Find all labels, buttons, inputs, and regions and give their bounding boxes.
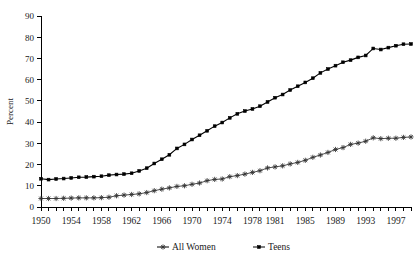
legend-label-teens: Teens	[268, 242, 290, 252]
data-point-teens	[357, 56, 360, 59]
series-line-teens	[41, 44, 411, 180]
data-point-teens	[349, 59, 352, 62]
data-point-all-women	[220, 176, 225, 181]
data-point-all-women	[106, 195, 111, 200]
series-line-all-women	[41, 137, 411, 199]
data-point-all-women	[401, 135, 406, 140]
data-point-teens	[160, 158, 163, 161]
y-axis-tick-label: 50	[25, 96, 35, 106]
data-point-all-women	[91, 195, 96, 200]
data-point-all-women	[393, 136, 398, 141]
data-point-all-women	[303, 158, 308, 163]
data-point-all-women	[167, 185, 172, 190]
data-point-teens	[364, 54, 367, 57]
data-point-teens	[183, 143, 186, 146]
data-point-all-women	[288, 161, 293, 166]
data-point-teens	[236, 112, 239, 115]
data-point-teens	[108, 174, 111, 177]
data-point-teens	[62, 177, 65, 180]
data-point-teens	[47, 178, 50, 181]
data-point-teens	[334, 64, 337, 67]
data-point-teens	[342, 61, 345, 64]
x-axis-tick-label: 1970	[183, 216, 202, 226]
data-point-teens	[176, 147, 179, 150]
y-axis-tick-label: 80	[25, 33, 35, 43]
data-point-teens	[289, 89, 292, 92]
data-point-all-women	[76, 195, 81, 200]
data-point-all-women	[189, 182, 194, 187]
data-point-teens	[213, 125, 216, 128]
data-point-teens	[319, 71, 322, 74]
data-point-teens	[168, 153, 171, 156]
data-point-teens	[221, 121, 224, 124]
legend-marker-star	[160, 244, 165, 249]
data-point-all-women	[348, 142, 353, 147]
data-point-teens	[394, 44, 397, 47]
data-point-all-women	[325, 150, 330, 155]
data-point-all-women	[129, 192, 134, 197]
data-point-all-women	[257, 168, 262, 173]
data-point-teens	[372, 47, 375, 50]
data-point-teens	[153, 162, 156, 165]
data-point-all-women	[333, 147, 338, 152]
x-axis-tick-label: 1985	[296, 216, 315, 226]
x-axis-tick-label: 1974	[213, 216, 232, 226]
data-point-teens	[123, 173, 126, 176]
data-point-all-women	[121, 193, 126, 198]
data-point-teens	[379, 48, 382, 51]
data-point-teens	[228, 116, 231, 119]
y-axis-tick-label: 10	[25, 181, 35, 191]
x-axis-tick-label: 1981	[266, 216, 285, 226]
data-point-all-women	[408, 134, 413, 139]
data-point-all-women	[242, 172, 247, 177]
line-chart: 0102030405060708090195019541958196219661…	[0, 0, 420, 263]
data-point-teens	[191, 138, 194, 141]
data-point-all-women	[182, 183, 187, 188]
legend-label-all-women: All Women	[172, 242, 216, 252]
data-point-all-women	[363, 139, 368, 144]
data-point-all-women	[280, 163, 285, 168]
data-point-all-women	[340, 145, 345, 150]
data-point-teens	[259, 105, 262, 108]
data-point-teens	[85, 176, 88, 179]
x-axis-tick-label: 1978	[243, 216, 262, 226]
data-point-all-women	[212, 177, 217, 182]
data-point-all-women	[386, 136, 391, 141]
x-axis-tick-label: 1954	[62, 216, 81, 226]
y-axis-tick-label: 90	[25, 11, 35, 21]
x-axis-tick-label: 1950	[32, 216, 51, 226]
y-axis-tick-label: 0	[30, 202, 35, 212]
data-point-all-women	[54, 196, 59, 201]
data-point-teens	[327, 68, 330, 71]
data-point-all-women	[144, 190, 149, 195]
data-point-all-women	[38, 196, 43, 201]
data-point-teens	[296, 85, 299, 88]
data-point-all-women	[152, 188, 157, 193]
data-point-all-women	[378, 136, 383, 141]
data-point-teens	[281, 93, 284, 96]
x-axis-tick-label: 1958	[92, 216, 111, 226]
data-point-all-women	[356, 141, 361, 146]
legend-marker-square	[258, 246, 261, 249]
data-point-teens	[206, 129, 209, 132]
data-point-teens	[198, 134, 201, 137]
data-point-all-women	[61, 196, 66, 201]
data-point-teens	[402, 43, 405, 46]
data-point-teens	[77, 176, 80, 179]
data-point-all-women	[84, 195, 89, 200]
data-point-all-women	[174, 184, 179, 189]
data-point-teens	[138, 170, 141, 173]
x-axis-tick-label: 1997	[386, 216, 405, 226]
data-point-all-women	[235, 173, 240, 178]
y-axis-tick-label: 40	[25, 117, 35, 127]
data-point-teens	[304, 81, 307, 84]
data-point-teens	[274, 96, 277, 99]
data-point-all-women	[295, 160, 300, 165]
data-point-teens	[100, 175, 103, 178]
y-axis-tick-label: 70	[25, 54, 35, 64]
x-axis-tick-label: 1962	[122, 216, 141, 226]
data-point-all-women	[114, 193, 119, 198]
data-point-all-women	[265, 165, 270, 170]
data-point-teens	[55, 178, 58, 181]
data-point-teens	[387, 46, 390, 49]
